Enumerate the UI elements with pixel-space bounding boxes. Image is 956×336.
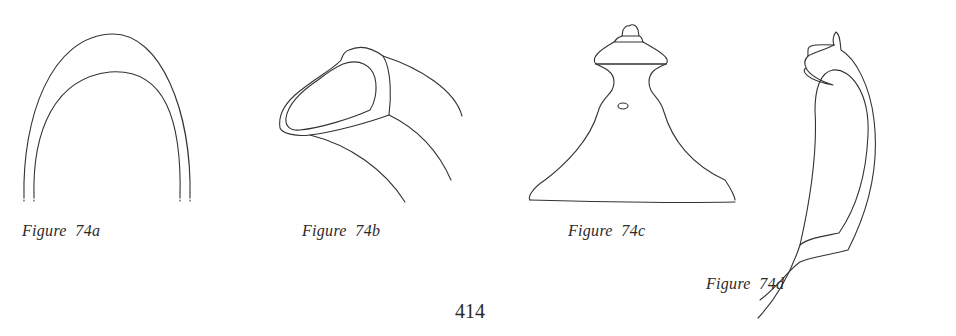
page-number: 414 — [455, 300, 485, 323]
figure-74a-drawing — [24, 34, 190, 203]
figure-74c-drawing — [529, 25, 735, 203]
figure-74a-caption: Figure 74a — [22, 222, 100, 240]
figure-74d-caption: Figure 74d — [706, 275, 784, 293]
figure-74b-drawing — [280, 48, 462, 202]
figure-74b-caption: Figure 74b — [302, 222, 380, 240]
figure-74c-caption: Figure 74c — [568, 222, 645, 240]
figure-drawings — [0, 0, 956, 336]
